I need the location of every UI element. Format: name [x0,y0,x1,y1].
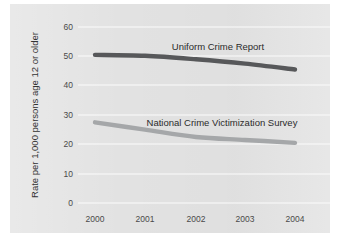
y-tick-30: 30 [64,110,74,120]
series-label-national-crime-victimization-survey: National Crime Victimization Survey [147,117,298,128]
series-group [95,55,295,143]
x-tick-2001: 2001 [136,214,155,224]
y-tick-20: 20 [64,139,74,149]
x-tick-2004: 2004 [286,214,305,224]
series-line-uniform-crime-report [95,55,295,70]
y-axis-tick-labels: 60 50 40 30 20 10 0 [64,22,74,208]
x-tick-2002: 2002 [187,214,206,224]
y-axis-title: Rate per 1,000 persons age 12 or older [29,32,40,198]
y-tick-40: 40 [64,80,74,90]
series-label-uniform-crime-report: Uniform Crime Report [172,41,265,52]
y-tick-10: 10 [64,169,74,179]
y-tick-50: 50 [64,51,74,61]
line-chart: Rate per 1,000 persons age 12 or older 6… [0,0,344,246]
x-tick-2003: 2003 [236,214,255,224]
y-tick-0: 0 [68,198,73,208]
x-axis-tick-labels: 2000 2001 2002 2003 2004 [86,214,305,224]
y-tick-60: 60 [64,22,74,32]
chart-figure: Rate per 1,000 persons age 12 or older 6… [0,0,344,246]
x-tick-2000: 2000 [86,214,105,224]
